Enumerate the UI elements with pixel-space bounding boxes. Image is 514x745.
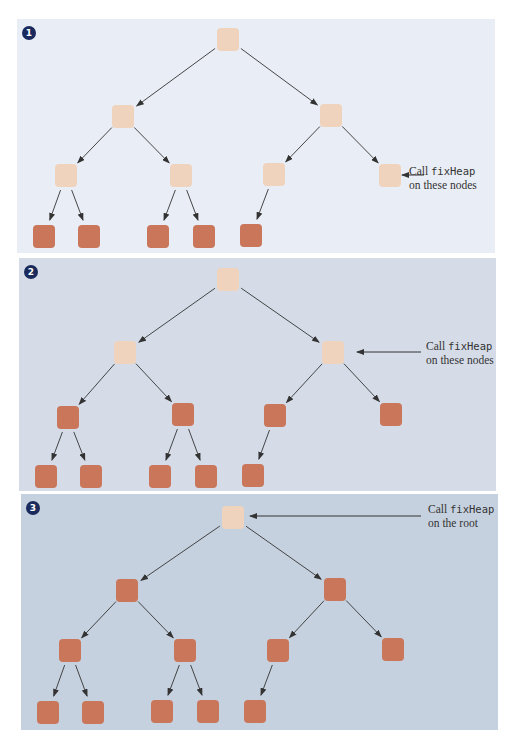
callout-method-name: fixHeap bbox=[431, 165, 475, 177]
tree-edge-arrow bbox=[164, 190, 175, 220]
tree-edge-arrow bbox=[138, 602, 173, 638]
callout-method-name: fixHeap bbox=[450, 503, 494, 515]
tree-edge-arrow bbox=[136, 364, 171, 402]
tree-edge-arrow bbox=[286, 127, 320, 162]
heap-node-l3-0 bbox=[37, 701, 59, 724]
tree-edge-arrow bbox=[74, 432, 85, 460]
callout-label: Call fixHeapon these nodes bbox=[409, 164, 477, 192]
tree-edge-arrow bbox=[50, 190, 61, 220]
heap-node-l2-1 bbox=[174, 639, 196, 662]
pending-node-l2-0 bbox=[55, 164, 77, 187]
callout-text-target: on the root bbox=[428, 517, 478, 529]
callout-text-target: on these nodes bbox=[426, 354, 494, 366]
tree-edge-arrow bbox=[134, 127, 169, 162]
tree-edge-arrow bbox=[191, 665, 202, 695]
callout-label: Call fixHeapon the root bbox=[428, 502, 494, 530]
heap-node-l3-3 bbox=[195, 465, 217, 488]
heap-node-l3-3 bbox=[197, 700, 219, 723]
step-panel-1: 1Call fixHeapon these nodes bbox=[17, 19, 495, 253]
tree-edge-arrow bbox=[79, 364, 114, 404]
tree-edge-arrow bbox=[290, 601, 324, 638]
pending-node-l1-1 bbox=[320, 104, 342, 127]
heap-node-l3-2 bbox=[149, 465, 171, 488]
tree-edge-arrow bbox=[287, 364, 323, 403]
pending-node-l2-2 bbox=[263, 163, 285, 186]
tree-edges bbox=[19, 258, 496, 491]
tree-edge-arrow bbox=[76, 665, 88, 696]
heap-node-l3-4 bbox=[242, 464, 264, 487]
tree-edge-arrow bbox=[137, 48, 215, 105]
heap-node-l3-2 bbox=[151, 700, 173, 723]
heap-node-l2-0 bbox=[57, 406, 79, 429]
pending-node-l2-1 bbox=[170, 164, 192, 187]
tree-edge-arrow bbox=[261, 665, 272, 695]
callout-text-prefix: Call bbox=[428, 503, 450, 515]
tree-edge-arrow bbox=[187, 190, 198, 220]
heap-node-l3-3 bbox=[193, 225, 215, 248]
tree-edge-arrow bbox=[342, 126, 378, 162]
tree-edge-arrow bbox=[168, 665, 179, 695]
step-panel-2: 2Call fixHeapon these nodes bbox=[19, 258, 496, 491]
callout-text-target: on these nodes bbox=[409, 179, 477, 191]
tree-edge-arrow bbox=[139, 288, 215, 342]
tree-edges bbox=[17, 19, 495, 253]
pending-node-l1-0 bbox=[114, 341, 136, 364]
callout-label: Call fixHeapon these nodes bbox=[426, 339, 494, 367]
pending-node-root bbox=[217, 28, 239, 51]
heap-node-l1-1 bbox=[324, 578, 346, 601]
heap-node-l3-1 bbox=[82, 701, 104, 724]
callout-method-name: fixHeap bbox=[448, 340, 492, 352]
pending-node-root bbox=[217, 268, 239, 291]
tree-edge-arrow bbox=[52, 432, 62, 460]
tree-edge-arrow bbox=[257, 189, 268, 219]
tree-edge-arrow bbox=[241, 48, 317, 104]
tree-edge-arrow bbox=[344, 364, 379, 402]
tree-edge-arrow bbox=[82, 602, 116, 638]
callout-text-prefix: Call bbox=[426, 340, 448, 352]
heap-node-l3-0 bbox=[33, 225, 55, 248]
heap-node-l2-2 bbox=[267, 639, 289, 662]
tree-edge-arrow bbox=[246, 526, 321, 579]
tree-edges bbox=[21, 494, 498, 730]
heap-node-l3-0 bbox=[35, 465, 57, 488]
pending-node-l2-3 bbox=[379, 164, 401, 187]
tree-edge-arrow bbox=[72, 190, 83, 220]
heap-node-l2-0 bbox=[59, 639, 81, 662]
callout-text-prefix: Call bbox=[409, 165, 431, 177]
tree-edge-arrow bbox=[166, 429, 178, 460]
tree-edge-arrow bbox=[141, 526, 220, 580]
heap-node-l2-1 bbox=[172, 403, 194, 426]
heap-node-l2-2 bbox=[264, 404, 286, 427]
heap-node-l3-4 bbox=[244, 700, 266, 723]
heap-node-l3-4 bbox=[240, 224, 262, 247]
tree-edge-arrow bbox=[78, 128, 112, 163]
tree-edge-arrow bbox=[346, 601, 381, 637]
heap-node-l2-3 bbox=[382, 638, 404, 661]
heap-node-l3-1 bbox=[80, 465, 102, 488]
heap-node-l2-3 bbox=[380, 403, 402, 426]
pending-node-l1-0 bbox=[112, 105, 134, 128]
heap-node-l3-1 bbox=[78, 225, 100, 248]
tree-edge-arrow bbox=[54, 665, 65, 696]
step-panel-3: 3Call fixHeapon the root bbox=[21, 494, 498, 730]
pending-node-l1-1 bbox=[322, 341, 344, 364]
heap-node-l1-0 bbox=[116, 579, 138, 602]
pending-node-root bbox=[222, 506, 244, 529]
tree-edge-arrow bbox=[189, 429, 201, 460]
tree-edge-arrow bbox=[241, 288, 319, 342]
tree-edge-arrow bbox=[259, 430, 270, 459]
heap-node-l3-2 bbox=[147, 225, 169, 248]
